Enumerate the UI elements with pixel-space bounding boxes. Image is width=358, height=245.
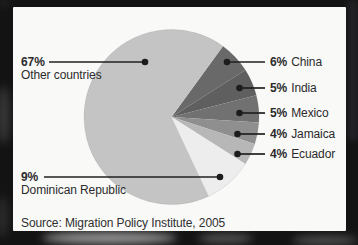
label-china-name: China — [291, 55, 322, 69]
label-jamaica: 4%Jamaica — [270, 127, 336, 141]
chart-panel: 6%China 5%India 5%Mexico 4%Jamaica 4%Ecu — [13, 7, 346, 231]
frame-glare — [348, 0, 358, 140]
label-dominican-republic-name: Dominican Republic — [21, 183, 126, 197]
label-mexico-pct: 5% — [270, 106, 288, 120]
label-mexico: 5%Mexico — [270, 106, 329, 120]
callout-dot-ecuador — [234, 151, 241, 158]
pie — [84, 29, 259, 204]
frame-glare — [292, 236, 358, 245]
frame-glare — [198, 234, 253, 243]
callout-dot-india — [236, 85, 243, 92]
label-india-pct: 5% — [270, 81, 288, 95]
frame-glare — [0, 196, 8, 238]
label-ecuador-pct: 4% — [270, 147, 288, 161]
label-other-countries-pct: 67% — [21, 55, 45, 69]
callout-dot-other-countries — [142, 59, 149, 66]
label-jamaica-pct: 4% — [270, 127, 288, 141]
label-mexico-name: Mexico — [291, 106, 329, 120]
screenshot-root: 6%China 5%India 5%Mexico 4%Jamaica 4%Ecu — [0, 0, 358, 245]
label-china-pct: 6% — [270, 55, 288, 69]
label-jamaica-name: Jamaica — [291, 127, 335, 141]
label-ecuador-name: Ecuador — [291, 147, 335, 161]
pie-chart-figure: 6%China 5%India 5%Mexico 4%Jamaica 4%Ecu — [13, 7, 346, 231]
label-other-countries-name: Other countries — [21, 68, 102, 82]
callout-dot-mexico — [236, 110, 243, 117]
label-india-name: India — [291, 81, 317, 95]
source-text: Source: Migration Policy Institute, 2005 — [21, 216, 226, 230]
frame-glare — [42, 232, 177, 244]
frame-glare — [0, 86, 10, 144]
callout-dot-dominican-republic — [217, 174, 224, 181]
label-india: 5%India — [270, 81, 317, 95]
label-ecuador: 4%Ecuador — [270, 147, 335, 161]
callout-dot-jamaica — [234, 131, 241, 138]
callout-dot-china — [224, 59, 231, 66]
label-dominican-republic-pct: 9% — [21, 170, 39, 184]
frame-glare — [0, 0, 9, 6]
label-china: 6%China — [270, 55, 322, 69]
